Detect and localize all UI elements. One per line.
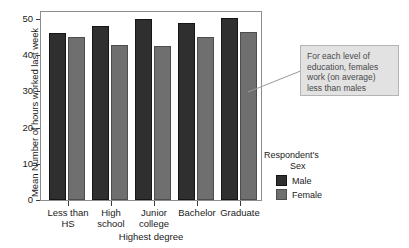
bar-male: [92, 26, 109, 200]
y-tick-label-40: 40: [22, 49, 33, 60]
legend-label-male: Male: [292, 176, 312, 186]
bar-male: [49, 33, 66, 200]
bar-group: [92, 19, 130, 200]
annotation-callout: For each level of education, females wor…: [300, 45, 399, 96]
bar-group: [49, 19, 87, 200]
bar-female: [111, 45, 128, 200]
plot-area: [41, 19, 261, 200]
bar-group: [135, 19, 173, 200]
y-tick-label-50: 50: [22, 13, 33, 24]
legend-swatch-female-icon: [276, 189, 287, 200]
y-axis-ticks: 50 40 30 20 10 0: [0, 0, 41, 248]
bar-chart-figure: Mean Number of hours worked last week 50…: [0, 0, 409, 248]
x-tick-label-graduate: Graduate: [210, 207, 270, 218]
x-axis-label: Highest degree: [40, 231, 262, 242]
x-tick-mark: [154, 201, 155, 206]
y-tick-label-10: 10: [22, 158, 33, 169]
legend-label-female: Female: [292, 190, 322, 200]
legend-item-male[interactable]: Male: [262, 175, 392, 186]
bar-male: [221, 18, 238, 200]
bar-male: [178, 23, 195, 200]
legend-swatch-male-icon: [276, 175, 287, 186]
bar-male: [135, 19, 152, 200]
legend: Respondent's Sex Male Female: [262, 150, 392, 200]
x-tick-mark: [197, 201, 198, 206]
y-tick-label-30: 30: [22, 85, 33, 96]
legend-title: Respondent's Sex: [262, 150, 392, 172]
x-tick-mark: [240, 201, 241, 206]
x-tick-mark: [68, 201, 69, 206]
x-tick-mark: [111, 201, 112, 206]
y-tick-label-0: 0: [28, 194, 33, 205]
y-tick-label-20: 20: [22, 122, 33, 133]
legend-title-line2: Sex: [264, 161, 392, 172]
bar-female: [68, 37, 85, 200]
annotation-leader-line: [248, 45, 303, 95]
bar-female: [197, 37, 214, 200]
legend-title-line1: Respondent's: [264, 150, 319, 160]
legend-item-female[interactable]: Female: [262, 189, 392, 200]
bar-group: [178, 19, 216, 200]
bar-female: [154, 46, 171, 200]
